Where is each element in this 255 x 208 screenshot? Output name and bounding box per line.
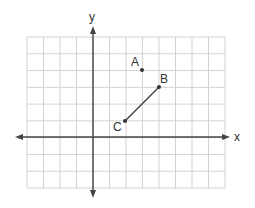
point-c bbox=[123, 119, 127, 123]
point-c-label: C bbox=[113, 120, 122, 134]
point-a bbox=[140, 68, 144, 72]
point-b-label: B bbox=[160, 72, 168, 86]
grid bbox=[27, 37, 225, 188]
y-axis-up-arrow-icon bbox=[90, 26, 96, 34]
x-axis-left-arrow-icon bbox=[15, 134, 23, 140]
x-axis-label: x bbox=[234, 130, 240, 144]
y-axis-down-arrow-icon bbox=[90, 190, 96, 198]
point-a-label: A bbox=[131, 55, 139, 69]
x-axis-right-arrow-icon bbox=[222, 134, 230, 140]
y-axis-label: y bbox=[89, 10, 95, 24]
coordinate-plane: x y A B C bbox=[0, 0, 255, 208]
